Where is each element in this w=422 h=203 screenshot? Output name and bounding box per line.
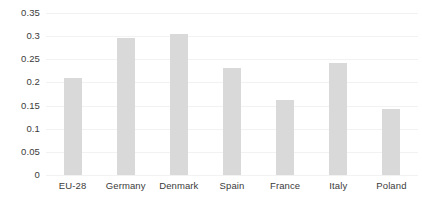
bars-layer: [46, 0, 418, 175]
bar: [276, 100, 294, 175]
gridline: [46, 175, 418, 176]
bar: [329, 63, 347, 175]
y-axis-tick-label: 0.2: [4, 77, 40, 87]
y-axis-tick-label: 0.1: [4, 124, 40, 134]
x-axis: EU-28GermanyDenmarkSpainFranceItalyPolan…: [46, 179, 418, 195]
y-axis-tick-label: 0: [4, 170, 40, 180]
y-axis-tick-label: 0.3: [4, 31, 40, 41]
x-axis-tick-label: Poland: [360, 179, 422, 193]
bar: [170, 34, 188, 175]
bar: [64, 78, 82, 175]
y-axis-tick-label: 0.35: [4, 8, 40, 18]
y-axis-tick-label: 0.15: [4, 101, 40, 111]
y-axis-tick-label: 0.05: [4, 147, 40, 157]
bar: [382, 109, 400, 175]
bar: [223, 68, 241, 175]
bar-chart: 0.350.30.250.20.150.10.050 EU-28GermanyD…: [0, 0, 422, 203]
y-axis-tick-label: 0.25: [4, 54, 40, 64]
y-axis: 0.350.30.250.20.150.10.050: [0, 0, 40, 203]
bar: [117, 38, 135, 175]
